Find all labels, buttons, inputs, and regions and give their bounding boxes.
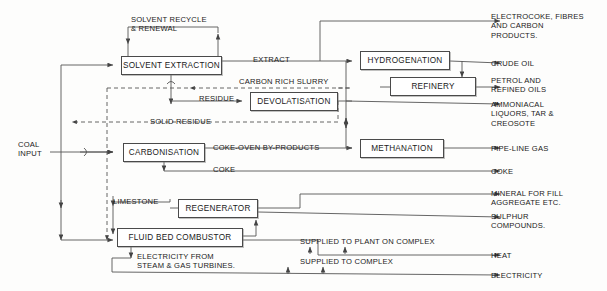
output-label-electricity: ELECTRICITY [491, 271, 543, 280]
output-label-sulphur-compounds: SULPHUR COMPOUNDS. [491, 212, 545, 231]
node-hydrogenation[interactable]: HYDROGENATION [360, 51, 450, 70]
node-solvent-extraction[interactable]: SOLVENT EXTRACTION [121, 56, 222, 75]
output-label-heat: HEAT [491, 251, 512, 260]
node-label: HYDROGENATION [368, 56, 443, 65]
output-label-petrol-refined-oils: PETROL AND REFINED OILS [491, 76, 546, 95]
node-label: REGENERATOR [185, 204, 250, 213]
flow-label-supplied-to-complex: SUPPLIED TO COMPLEX [300, 257, 393, 266]
flow-label-residue: RESIDUE [199, 94, 234, 103]
flow-label-solvent-recycle: SOLVENT RECYCLE & RENEWAL [131, 15, 207, 34]
flow-label-coke-stream: COKE [213, 165, 235, 174]
process-flow-diagram: SOLVENT EXTRACTION DEVOLATISATION HYDROG… [0, 0, 607, 291]
node-label: METHANATION [371, 144, 433, 153]
output-label-pipe-line-gas: PIPE-LINE GAS [491, 144, 548, 153]
output-label-coke: COKE [491, 167, 513, 176]
node-carbonisation[interactable]: CARBONISATION [123, 143, 205, 162]
node-regenerator[interactable]: REGENERATOR [178, 199, 258, 218]
coal-input-label: COAL INPUT [18, 140, 42, 159]
output-label-ammoniacal: AMMONIACAL LIQUORS, TAR & CREOSOTE [491, 100, 554, 128]
flow-label-supplied-to-plant: SUPPLIED TO PLANT ON COMPLEX [300, 237, 435, 246]
node-methanation[interactable]: METHANATION [360, 139, 444, 158]
output-label-electrocoke: ELECTROCOKE, FIBRES AND CARBON PRODUCTS. [491, 12, 584, 40]
node-label: REFINERY [411, 82, 454, 91]
flow-label-electricity-from-turbines: ELECTRICITY FROM STEAM & GAS TURBINES. [137, 252, 235, 271]
node-fluid-bed-combustor[interactable]: FLUID BED COMBUSTOR [117, 228, 243, 247]
output-label-mineral-for-fill: MINERAL FOR FILL AGGREGATE ETC. [491, 189, 563, 208]
node-devolatisation[interactable]: DEVOLATISATION [250, 92, 338, 111]
flow-label-solid-residue: SOLID RESIDUE [150, 117, 211, 126]
flow-label-coke-oven-by-products: COKE-OVEN BY-PRODUCTS [213, 143, 319, 152]
node-label: SOLVENT EXTRACTION [123, 61, 220, 70]
flow-label-extract: EXTRACT [253, 55, 290, 64]
flow-label-limestone: LIMESTONE [113, 197, 159, 206]
output-label-crude-oil: CRUDE OIL [491, 59, 534, 68]
flow-label-carbon-rich-slurry: CARBON RICH SLURRY [239, 77, 329, 86]
node-label: FLUID BED COMBUSTOR [129, 233, 232, 242]
node-refinery[interactable]: REFINERY [390, 77, 476, 96]
node-label: CARBONISATION [129, 148, 199, 157]
node-label: DEVOLATISATION [257, 97, 330, 106]
